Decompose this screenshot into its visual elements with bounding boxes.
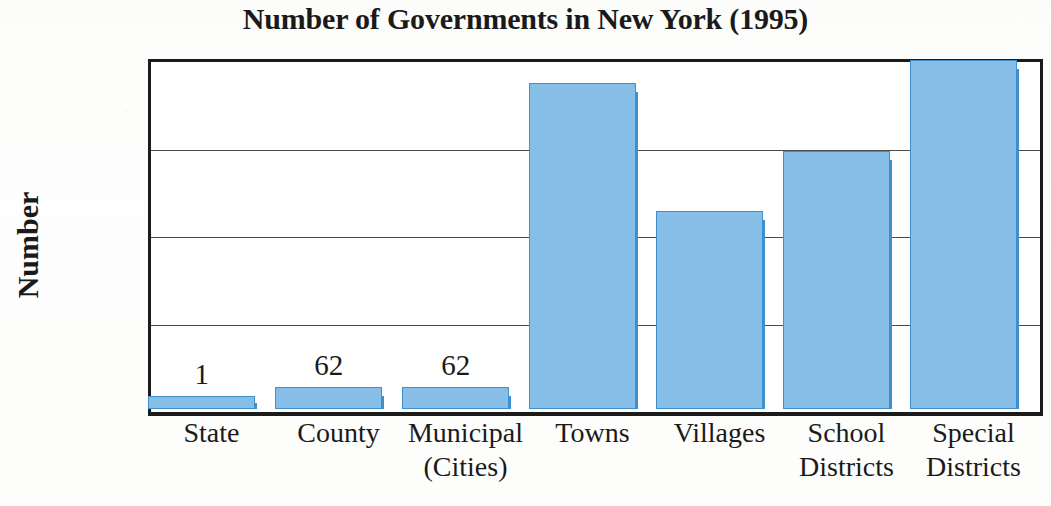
bar-state[interactable] [148,396,255,409]
x-tick-label-line: Villages [674,417,766,448]
bar-group [656,59,783,409]
bar-group [148,59,275,409]
bar-value-label: 1 [148,360,255,389]
bar-value-label: 62 [402,351,509,380]
x-tick-label: SpecialDistricts [898,416,1049,484]
chart-title: Number of Governments in New York (1995) [0,2,1051,36]
bar-group [783,59,910,409]
x-axis-tick-labels: StateCountyMunicipal(Cities)TownsVillage… [148,416,1037,498]
x-tick-label-line: State [184,417,240,448]
bars-group: 16262 [148,59,1037,409]
y-axis-title: Number [11,155,45,335]
x-tick-label-line: Towns [555,417,629,448]
bar-county[interactable] [275,387,382,409]
x-tick-label-line: County [297,417,379,448]
bar-municipal-cities[interactable] [402,387,509,409]
bar-towns[interactable] [529,83,636,409]
bar-villages[interactable] [656,211,763,409]
bar-group [529,59,656,409]
x-tick-label-line: Districts [898,450,1049,484]
bar-special-districts[interactable] [910,60,1017,409]
x-tick-label-line: Municipal [408,417,523,448]
bar-value-label: 62 [275,351,382,380]
bar-group [910,59,1037,409]
bar-school-districts[interactable] [783,151,890,409]
x-tick-label-line: Special [932,417,1014,448]
chart-figure: Number of Governments in New York (1995)… [0,0,1051,506]
x-tick-label-line: (Cities) [390,450,541,484]
x-tick-label-line: School [808,417,886,448]
